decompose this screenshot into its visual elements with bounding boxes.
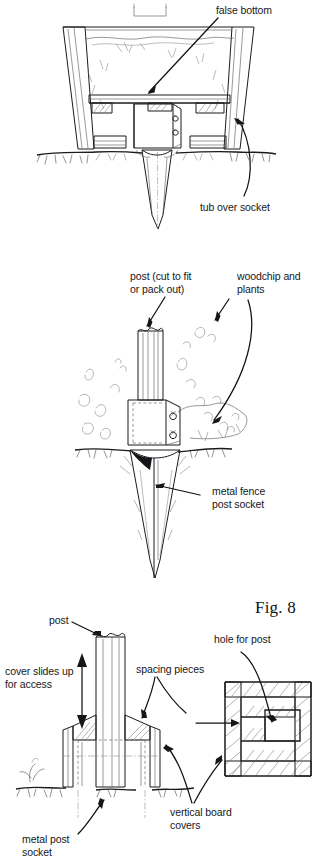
panel-tub-over-socket xyxy=(37,27,276,229)
label-woodchip-line2: plants xyxy=(237,283,264,296)
leader-woodchip-short xyxy=(215,299,229,322)
dimension-bracket xyxy=(134,3,166,16)
label-post-cut-to-fit-line2: or pack out) xyxy=(130,283,184,296)
leader-hole-for-post xyxy=(241,652,277,722)
panel-metal-fence-post-socket xyxy=(75,327,247,578)
plan-view-post-cover xyxy=(225,682,311,776)
technical-illustration xyxy=(0,0,317,860)
leader-metal-fence-socket xyxy=(156,483,200,495)
cover-slide-arrow xyxy=(77,653,87,729)
label-metal-fence-line1: metal fence xyxy=(212,485,265,498)
label-vertical-board-line1: vertical board xyxy=(170,806,232,819)
tub-soil-fill xyxy=(86,37,234,109)
label-cover-slides-line1: cover slides up xyxy=(5,665,74,678)
socket-bolts-top xyxy=(173,115,178,135)
label-metal-fence-line2: post socket xyxy=(212,498,264,511)
ground-line-bottom xyxy=(16,758,194,797)
label-metal-post-line1: metal post xyxy=(22,833,69,846)
socket-bolts-mid xyxy=(170,411,177,439)
leader-vertical-board-covers xyxy=(163,745,222,803)
label-hole-for-post: hole for post xyxy=(214,633,271,646)
leader-post-bottom xyxy=(72,622,101,636)
socket-spike-mid xyxy=(120,450,190,578)
label-post-cut-to-fit-line1: post (cut to fit xyxy=(130,270,191,283)
timber-post-mid xyxy=(138,328,163,400)
vertical-board-cover-right xyxy=(150,726,160,787)
label-cover-slides-line2: for access xyxy=(5,678,52,691)
tub-body xyxy=(63,27,254,149)
figure-page: false bottom tub over socket post (cut t… xyxy=(0,0,317,860)
leader-metal-post-socket-bottom xyxy=(78,798,104,834)
vertical-board-cover-left xyxy=(63,726,73,787)
label-tub-over-socket: tub over socket xyxy=(200,201,270,214)
socket-collar-mid xyxy=(128,400,180,445)
label-false-bottom: false bottom xyxy=(216,4,272,17)
label-woodchip-line1: woodchip and xyxy=(237,270,301,283)
label-vertical-board-line2: covers xyxy=(170,819,200,832)
leader-plan-left xyxy=(196,719,240,727)
false-bottom-board xyxy=(89,95,230,103)
label-spacing-pieces: spacing pieces xyxy=(136,663,204,676)
leader-false-bottom xyxy=(148,18,219,94)
post-elevation xyxy=(96,633,125,787)
panel-post-cover-assembly xyxy=(16,633,311,818)
leader-post-cut xyxy=(147,297,165,328)
leader-spacing-pieces xyxy=(141,677,186,718)
metal-post-socket-bottom xyxy=(63,740,160,818)
label-post: post xyxy=(49,614,68,627)
ground-line-top xyxy=(37,152,276,164)
label-metal-post-line2: socket xyxy=(22,846,52,859)
socket-spike-top xyxy=(136,150,178,229)
figure-caption: Fig. 8 xyxy=(255,598,296,618)
tub-base-boards xyxy=(94,136,226,148)
